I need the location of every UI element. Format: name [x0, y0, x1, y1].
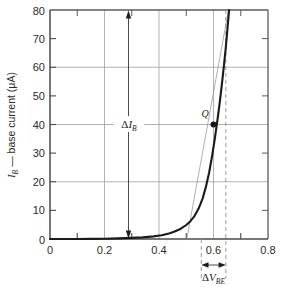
y-tick-label-0: 0 [39, 234, 45, 246]
x-tick-label-0.8: 0.8 [260, 244, 275, 256]
figure-container: 0 10 20 30 40 50 60 70 80 0 0.2 0.4 0.6 … [0, 0, 284, 287]
y-tick-label-80: 80 [33, 5, 45, 17]
y-tick-label-10: 10 [33, 204, 45, 216]
y-tick-label-70: 70 [33, 33, 45, 45]
q-point-marker [211, 122, 217, 128]
base-current-characteristic-chart: 0 10 20 30 40 50 60 70 80 0 0.2 0.4 0.6 … [0, 0, 284, 287]
q-point-label: Q [201, 108, 209, 119]
x-tick-label-0.4: 0.4 [151, 244, 166, 256]
y-tick-label-60: 60 [33, 61, 45, 73]
y-tick-label-30: 30 [33, 147, 45, 159]
y-tick-label-20: 20 [33, 176, 45, 188]
y-tick-label-40: 40 [33, 119, 45, 131]
y-axis-tick-labels: 0 10 20 30 40 50 60 70 80 [33, 5, 45, 247]
x-tick-label-0.6: 0.6 [206, 244, 221, 256]
x-tick-label-0.2: 0.2 [97, 244, 112, 256]
x-tick-label-0: 0 [47, 244, 53, 256]
y-tick-label-50: 50 [33, 90, 45, 102]
